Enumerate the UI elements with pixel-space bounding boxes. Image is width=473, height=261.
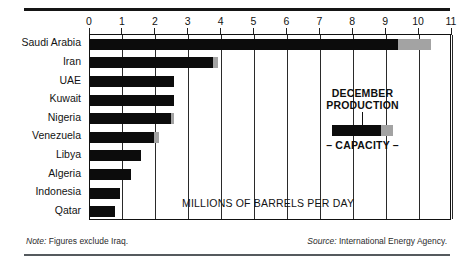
x-tick-label: 1 bbox=[119, 16, 125, 27]
bar-capacity bbox=[154, 132, 159, 143]
y-axis-label-kuwait: Kuwait bbox=[49, 93, 81, 104]
bar-row bbox=[90, 150, 452, 161]
bar-production bbox=[90, 188, 120, 199]
x-tick-label: 10 bbox=[412, 16, 424, 27]
bar-row bbox=[90, 169, 452, 180]
chart-note: Note: Figures exclude Iraq. bbox=[26, 236, 128, 246]
y-axis-label-venezuela: Venezuela bbox=[32, 130, 81, 141]
x-tick-label: 3 bbox=[185, 16, 191, 27]
x-tick-label: 4 bbox=[218, 16, 224, 27]
y-axis-label-nigeria: Nigeria bbox=[48, 112, 81, 123]
legend-title-line1: DECEMBER bbox=[310, 87, 415, 99]
bar-row bbox=[90, 57, 452, 68]
x-tick-label: 2 bbox=[152, 16, 158, 27]
source-lead: Source: bbox=[307, 236, 336, 246]
x-tick-label: 8 bbox=[349, 16, 355, 27]
x-axis-tick-labels: 01234567891011 bbox=[89, 0, 451, 30]
bar-capacity bbox=[398, 39, 431, 50]
bar-production bbox=[90, 113, 171, 124]
bar-production bbox=[90, 76, 174, 87]
bar-production bbox=[90, 39, 398, 50]
bar-row bbox=[90, 113, 452, 124]
bar-row bbox=[90, 76, 452, 87]
y-axis-category-labels: Saudi ArabiaIranUAEKuwaitNigeriaVenezuel… bbox=[0, 34, 84, 220]
x-tick-label: 5 bbox=[251, 16, 257, 27]
x-tick-label: 7 bbox=[316, 16, 322, 27]
bar-row bbox=[90, 39, 452, 50]
bar-production bbox=[90, 57, 213, 68]
y-axis-label-algeria: Algeria bbox=[48, 168, 81, 179]
x-tick-label: 9 bbox=[382, 16, 388, 27]
bar-capacity bbox=[213, 57, 218, 68]
bar-production bbox=[90, 169, 131, 180]
bar-production bbox=[90, 150, 141, 161]
y-axis-label-libya: Libya bbox=[56, 149, 81, 160]
legend-swatch bbox=[332, 125, 393, 136]
source-text: International Energy Agency. bbox=[337, 236, 447, 246]
x-tick-label: 0 bbox=[86, 16, 92, 27]
x-tick-label: 6 bbox=[284, 16, 290, 27]
y-axis-label-qatar: Qatar bbox=[55, 205, 81, 216]
plot-area: MILLIONS OF BARRELS PER DAY DECEMBER PRO… bbox=[89, 34, 451, 220]
legend-swatch-production bbox=[332, 125, 381, 136]
legend-title-line2: PRODUCTION bbox=[310, 99, 415, 111]
oil-production-chart: 01234567891011 Saudi ArabiaIranUAEKuwait… bbox=[0, 0, 473, 261]
legend-swatch-capacity bbox=[381, 125, 393, 136]
y-axis-label-saudi-arabia: Saudi Arabia bbox=[21, 37, 81, 48]
bar-production bbox=[90, 95, 174, 106]
bar-production bbox=[90, 132, 154, 143]
x-axis-label: MILLIONS OF BARRELS PER DAY bbox=[182, 197, 354, 209]
chart-source: Source: International Energy Agency. bbox=[307, 236, 447, 246]
note-lead: Note: bbox=[26, 236, 46, 246]
legend-pointer-line bbox=[362, 112, 363, 125]
bar-production bbox=[90, 206, 115, 217]
x-tick-label: 11 bbox=[446, 16, 457, 27]
bar-capacity bbox=[171, 113, 174, 124]
note-text: Figures exclude Iraq. bbox=[46, 236, 128, 246]
chart-legend: DECEMBER PRODUCTION – CAPACITY – bbox=[310, 87, 415, 111]
y-axis-label-indonesia: Indonesia bbox=[35, 186, 81, 197]
bottom-rule bbox=[24, 254, 450, 256]
legend-capacity-label: – CAPACITY – bbox=[310, 139, 415, 151]
y-axis-label-uae: UAE bbox=[59, 75, 81, 86]
y-axis-label-iran: Iran bbox=[63, 56, 81, 67]
